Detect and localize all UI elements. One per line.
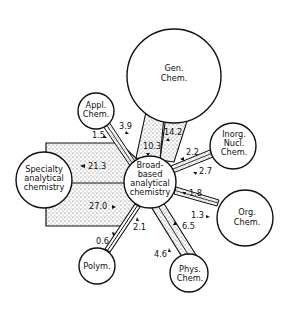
node-inorg-nucl-chem: Inorg. Nucl. Chem. xyxy=(210,123,256,169)
node-label: Polym. xyxy=(83,261,110,271)
citation-flow-diagram: Gen. Chem. Appl. Chem. Inorg. Nucl. Chem… xyxy=(0,0,285,312)
arrow-icon xyxy=(136,217,139,221)
node-org-chem: Org. Chem. xyxy=(217,190,273,246)
node-label: chemistry xyxy=(130,187,171,197)
flow-value: 10.3 xyxy=(143,141,161,151)
flow-value: 21.3 xyxy=(88,161,106,171)
arrow-icon xyxy=(180,157,184,161)
flow-value: 2.7 xyxy=(199,166,212,176)
node-label: Gen. xyxy=(164,63,183,73)
arrow-icon xyxy=(168,248,171,252)
flow-value: 1.8 xyxy=(189,188,202,198)
node-label: Chem. xyxy=(161,73,188,83)
node-phys-chem: Phys. Chem. xyxy=(170,254,208,292)
arrow-icon xyxy=(206,215,210,218)
node-polym: Polym. xyxy=(79,248,115,284)
node-label: Org. xyxy=(238,207,255,217)
flow-value: 0.6 xyxy=(96,236,109,246)
flow-value: 1.5 xyxy=(92,130,105,140)
arrow-icon xyxy=(125,131,129,134)
node-label: Chem. xyxy=(83,109,110,119)
flow-value: 6.5 xyxy=(182,221,195,231)
node-broad-based-analytical-chemistry: Broad- based analytical chemistry xyxy=(124,156,176,208)
flow-value: 2.2 xyxy=(186,147,199,157)
node-label: chemistry xyxy=(24,182,65,192)
flow-value: 27.0 xyxy=(89,201,107,211)
flow-value: 14.2 xyxy=(164,127,182,137)
flow-value: 4.6 xyxy=(154,249,167,259)
node-gen-chem: Gen. Chem. xyxy=(127,29,221,123)
node-specialty-analytical-chemistry: Specialty analytical chemistry xyxy=(16,152,72,208)
node-label: Chem. xyxy=(221,147,248,157)
flow-value: 3.9 xyxy=(119,121,132,131)
node-appl-chem: Appl. Chem. xyxy=(78,93,114,129)
node-label: Chem. xyxy=(177,273,204,283)
flow-value: 2.1 xyxy=(133,222,146,232)
node-label: Chem. xyxy=(234,217,261,227)
flow-value: 1.3 xyxy=(191,210,204,220)
arrow-icon xyxy=(193,172,197,175)
